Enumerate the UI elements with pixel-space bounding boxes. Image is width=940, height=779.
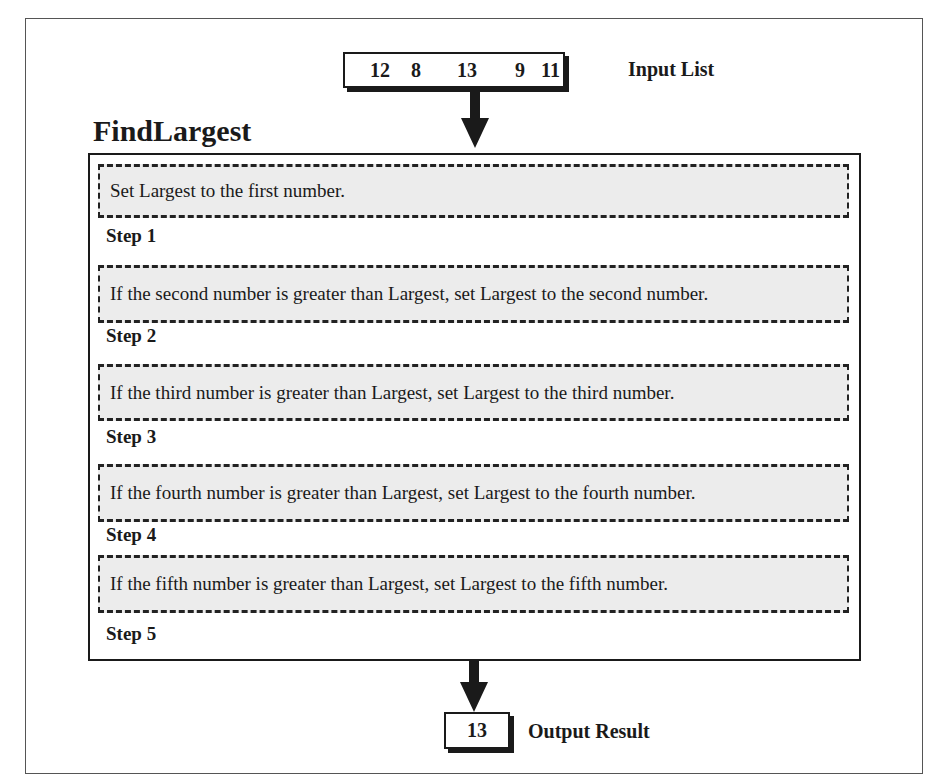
step-4-text: If the fourth number is greater than Lar… xyxy=(110,482,695,504)
step-1-label: Step 1 xyxy=(106,225,156,247)
step-2-box: If the second number is greater than Lar… xyxy=(98,265,849,323)
input-value: 12 xyxy=(370,59,390,82)
input-value: 9 xyxy=(515,59,525,82)
input-list-label: Input List xyxy=(628,58,714,81)
step-1-text: Set Largest to the first number. xyxy=(110,180,345,202)
input-value: 11 xyxy=(541,59,560,82)
step-3-text: If the third number is greater than Larg… xyxy=(110,382,674,404)
output-result-box: 13 xyxy=(444,712,510,749)
step-5-label: Step 5 xyxy=(106,623,156,645)
arrow-down-icon xyxy=(460,88,490,150)
input-list-box: 12 8 13 9 11 xyxy=(343,52,565,88)
algorithm-title: FindLargest xyxy=(93,114,251,148)
output-value: 13 xyxy=(467,719,487,742)
step-3-label: Step 3 xyxy=(106,426,156,448)
step-1-box: Set Largest to the first number. xyxy=(98,164,849,218)
input-value: 8 xyxy=(411,59,421,82)
input-value: 13 xyxy=(457,59,477,82)
arrow-down-icon xyxy=(459,660,489,714)
step-2-label: Step 2 xyxy=(106,325,156,347)
step-4-label: Step 4 xyxy=(106,524,156,546)
output-result-label: Output Result xyxy=(528,720,650,743)
step-4-box: If the fourth number is greater than Lar… xyxy=(98,464,849,522)
step-3-box: If the third number is greater than Larg… xyxy=(98,364,849,421)
step-5-box: If the fifth number is greater than Larg… xyxy=(98,555,849,613)
step-2-text: If the second number is greater than Lar… xyxy=(110,283,708,305)
step-5-text: If the fifth number is greater than Larg… xyxy=(110,573,668,595)
